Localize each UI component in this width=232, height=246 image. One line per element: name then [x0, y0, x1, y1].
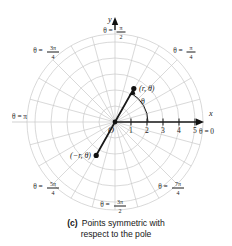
theta-7pi-over-4-prefix: θ = [158, 182, 168, 191]
theta-pi-over-2-prefix: θ = [103, 26, 113, 35]
point-neg-r-theta-marker [94, 153, 99, 158]
theta-pi-over-4-label: θ = π 4 [173, 45, 195, 60]
theta-5pi-over-4-numer: 5π [50, 181, 56, 187]
polar-grid-svg: (r, θ) (−r, θ) O θ x y 1 2 3 4 5 θ =0 θ … [0, 0, 232, 246]
theta-5pi-over-4-prefix: θ = [33, 182, 43, 191]
origin-label: O [108, 126, 114, 135]
theta-3pi-over-2-numer: 3π [117, 199, 123, 205]
theta-7pi-over-4-denom: 4 [177, 190, 180, 196]
theta-7pi-over-4-label: θ = 7π 4 [158, 181, 184, 196]
angle-arc-label: θ [141, 97, 145, 106]
theta-pi-over-2-numer: π [119, 25, 122, 31]
theta-3pi-over-4-prefix: θ = [33, 46, 43, 55]
theta-5pi-over-4-denom: 4 [52, 190, 55, 196]
svg-text:θ =π: θ =π [12, 112, 27, 121]
theta-5pi-over-4-label: θ = 5π 4 [33, 181, 59, 196]
theta-3pi-over-2-label: θ = 3π 2 [100, 199, 126, 214]
x-tick-3: 3 [161, 126, 165, 135]
svg-text:θ =0: θ =0 [199, 127, 214, 136]
caption-tag: (c) [67, 218, 78, 228]
theta-3pi-over-2-denom: 2 [119, 208, 122, 214]
polar-coordinate-figure: (r, θ) (−r, θ) O θ x y 1 2 3 4 5 θ =0 θ … [0, 0, 232, 246]
x-tick-2: 2 [145, 126, 149, 135]
caption-line-1: Points symmetric with [82, 218, 165, 228]
theta-zero-value: 0 [210, 127, 214, 136]
x-tick-4: 4 [177, 126, 181, 135]
theta-pi-over-4-denom: 4 [190, 54, 193, 60]
theta-pi-prefix: θ = [12, 112, 22, 121]
theta-zero-label: θ =0 [199, 127, 214, 136]
pole-marker [113, 120, 118, 125]
point-neg-r-theta-label: (−r, θ) [70, 151, 91, 160]
theta-pi-label: θ =π [12, 112, 27, 121]
point-r-theta-label: (r, θ) [139, 84, 155, 93]
y-axis-label: y [107, 15, 112, 24]
theta-7pi-over-4-numer: 7π [175, 181, 181, 187]
point-r-theta-marker [131, 86, 136, 91]
theta-zero-prefix: θ = [199, 127, 209, 136]
theta-pi-over-2-denom: 2 [120, 34, 123, 40]
theta-pi-value: π [23, 112, 27, 121]
theta-pi-over-4-numer: π [189, 45, 192, 51]
x-axis-arrow [115, 119, 204, 126]
figure-caption: (c)Points symmetric with respect to the … [0, 218, 232, 240]
theta-3pi-over-4-denom: 4 [52, 54, 55, 60]
x-tick-1: 1 [129, 126, 133, 135]
theta-pi-over-4-prefix: θ = [173, 46, 183, 55]
theta-3pi-over-4-numer: 3π [50, 45, 56, 51]
x-tick-5: 5 [193, 126, 197, 135]
theta-3pi-over-2-prefix: θ = [100, 200, 110, 209]
x-axis-label: x [208, 109, 213, 118]
caption-line-2: respect to the pole [81, 229, 152, 239]
